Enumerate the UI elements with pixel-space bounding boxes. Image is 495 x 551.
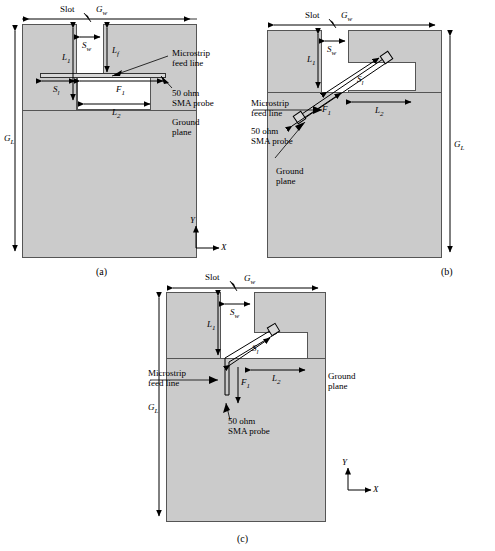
label-sma-c: 50 ohmSMA probe — [228, 416, 270, 437]
label-sma-a: 50 ohmSMA probe — [172, 88, 214, 109]
label-gw-c: Gw — [244, 274, 255, 286]
label-microstrip-b: Microstripfeed line — [251, 98, 289, 119]
label-gl-a: GL — [4, 134, 14, 146]
label-f1-b: F1 — [322, 105, 331, 117]
axis-y-label-a: Y — [190, 216, 195, 225]
label-slot-c: Slot — [205, 272, 220, 282]
label-sw-c: Sw — [230, 308, 239, 320]
label-ground-b: Groundplane — [276, 166, 304, 187]
label-l2-b: L2 — [375, 106, 384, 118]
label-microstrip-c: Microstripfeed line — [148, 368, 186, 389]
label-gw-b: Gw — [341, 11, 352, 23]
label-sl-b: Sl — [357, 75, 363, 87]
label-f1-c: F1 — [241, 378, 250, 390]
label-l1-c: L1 — [207, 320, 216, 332]
label-l1-b: L1 — [307, 55, 316, 67]
label-slot-b: Slot — [305, 10, 320, 20]
panel-a: Slot Gw GL Sw L1 Lf Sl F1 L2 Microstripf… — [0, 0, 250, 285]
label-gl-b: GL — [454, 140, 464, 152]
caption-b: (b) — [441, 266, 453, 277]
panel-a-annotations — [0, 0, 250, 285]
label-ground-a: Groundplane — [172, 117, 200, 138]
label-f1-a: F1 — [116, 85, 125, 97]
label-gw-a: Gw — [96, 5, 107, 17]
label-sw-b: Sw — [327, 45, 336, 57]
axis-y-label-c: Y — [342, 458, 347, 467]
label-sw-a: Sw — [82, 41, 91, 53]
label-slot-a: Slot — [60, 4, 75, 14]
label-l1-a: L1 — [62, 53, 71, 65]
caption-c: (c) — [237, 533, 248, 544]
label-l2-c: L2 — [272, 374, 281, 386]
label-sma-b: 50 ohmSMA probe — [251, 126, 293, 147]
caption-a: (a) — [96, 266, 107, 277]
label-ground-c: Groundplane — [328, 371, 356, 392]
label-sl-a: Sl — [53, 85, 59, 97]
panel-b: Slot Gw GL Sw L1 Sl F1 L2 Microstripfeed… — [245, 0, 495, 285]
label-l2-a: L2 — [112, 108, 121, 120]
label-gl-c: GL — [148, 403, 158, 415]
axis-x-label-c: X — [373, 485, 379, 494]
panel-c-annotations — [120, 275, 390, 551]
label-microstrip-a: Microstripfeed line — [172, 48, 210, 69]
label-lf-a: Lf — [112, 46, 119, 58]
label-sl-c: Sl — [252, 344, 258, 356]
panel-c: Slot Gw GL Sw L1 Sl F1 L2 Microstripfeed… — [120, 275, 390, 551]
axis-x-label-a: X — [221, 243, 227, 252]
